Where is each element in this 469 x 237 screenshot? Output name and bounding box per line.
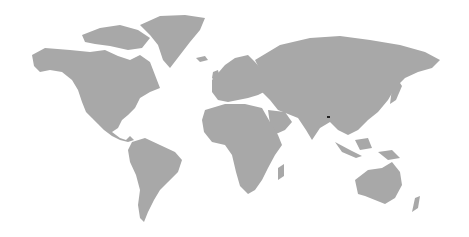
world-map bbox=[0, 0, 469, 237]
south-america bbox=[128, 138, 182, 222]
greenland bbox=[140, 15, 205, 68]
sumatra-borneo bbox=[335, 138, 372, 158]
new-guinea bbox=[378, 150, 400, 160]
highlighted-country-bhutan bbox=[327, 116, 330, 118]
australia bbox=[355, 162, 402, 204]
arctic-islands bbox=[82, 25, 150, 50]
new-zealand bbox=[412, 196, 420, 212]
iceland bbox=[196, 56, 208, 62]
madagascar bbox=[278, 164, 284, 180]
north-america bbox=[32, 48, 160, 142]
